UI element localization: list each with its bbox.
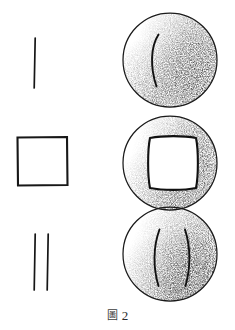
- figure-caption: 圖 2: [0, 303, 235, 327]
- sphere-inscribed-square: [118, 111, 223, 216]
- symbol-double-vertical-stroke: [34, 234, 48, 290]
- caption-number: 2: [122, 309, 129, 322]
- sphere-single-line: [118, 8, 223, 113]
- figure-illustration: [0, 0, 235, 330]
- sphere-double-line: [118, 202, 223, 307]
- caption-glyph: 圖: [107, 310, 118, 321]
- row-2-group: [18, 111, 224, 216]
- symbol-square-outline: [18, 137, 68, 186]
- row-3-group: [34, 202, 223, 307]
- row-1-group: [34, 8, 223, 113]
- figure-container: 圖 2: [0, 0, 235, 330]
- symbol-single-vertical-stroke: [34, 38, 35, 88]
